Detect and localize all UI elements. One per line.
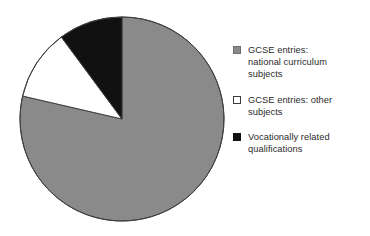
legend-swatch-black-icon [233, 133, 241, 141]
legend-swatch-white-icon [233, 96, 241, 104]
legend-swatch-gray-icon [233, 46, 241, 54]
pie-chart [19, 16, 225, 222]
legend-label-gcse-other-subjects: GCSE entries: other subjects [248, 94, 332, 118]
legend-item-gcse-other-subjects: GCSE entries: other subjects [233, 94, 367, 118]
legend-item-gcse-national-curriculum: GCSE entries: national curriculum subjec… [233, 44, 367, 81]
pie-chart-figure: GCSE entries: national curriculum subjec… [0, 0, 370, 236]
legend-label-gcse-national-curriculum: GCSE entries: national curriculum subjec… [248, 44, 327, 81]
legend-label-vocationally-related-qualifications: Vocationally related qualifications [248, 131, 330, 155]
legend-item-vocationally-related-qualifications: Vocationally related qualifications [233, 131, 367, 155]
pie-slices [20, 17, 224, 221]
chart-legend: GCSE entries: national curriculum subjec… [233, 44, 367, 168]
